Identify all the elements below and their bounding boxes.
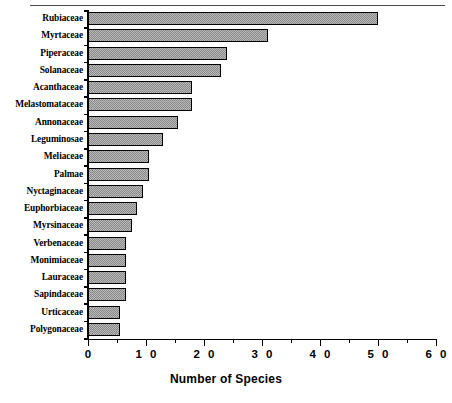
y-axis-tick	[84, 96, 89, 98]
x-axis-title: Number of Species	[0, 372, 452, 386]
bar	[88, 12, 378, 25]
bar	[88, 116, 178, 129]
category-label: Polygonaceae	[0, 324, 83, 335]
x-axis-minor-tick	[117, 339, 118, 343]
bar	[88, 237, 126, 250]
bar	[88, 202, 137, 215]
bar	[88, 271, 126, 284]
bar	[88, 81, 192, 94]
category-label: Piperaceae	[0, 48, 83, 59]
x-axis-tick-label: 6 0	[416, 348, 452, 360]
y-axis-tick	[84, 234, 89, 236]
x-axis-major-tick	[436, 339, 437, 346]
bar	[88, 64, 221, 77]
y-axis-tick	[84, 286, 89, 288]
y-axis-tick	[84, 200, 89, 202]
category-label: Sapindaceae	[0, 289, 83, 300]
x-axis-major-tick	[320, 339, 321, 346]
y-axis-tick	[84, 303, 89, 305]
category-label: Monimiaceae	[0, 255, 83, 266]
y-axis-tick	[84, 148, 89, 150]
x-axis-tick-label: 2 0	[184, 348, 224, 360]
x-axis-minor-tick	[233, 339, 234, 343]
category-label: Acanthaceae	[0, 82, 83, 93]
bar	[88, 306, 120, 319]
y-axis-tick	[84, 165, 89, 167]
bar	[88, 150, 149, 163]
y-axis-tick	[84, 269, 89, 271]
category-label: Lauraceae	[0, 272, 83, 283]
y-axis-tick	[84, 62, 89, 64]
x-axis-major-tick	[204, 339, 205, 346]
x-axis-major-tick	[146, 339, 147, 346]
x-axis-tick-label: 3 0	[242, 348, 282, 360]
category-axis-labels: RubiaceaeMyrtaceaePiperaceaeSolanaceaeAc…	[0, 10, 83, 338]
y-axis-tick	[84, 45, 89, 47]
y-axis-tick	[84, 183, 89, 185]
top-divider-rule	[30, 5, 445, 6]
y-axis-tick	[84, 79, 89, 81]
plot-area	[88, 10, 436, 338]
y-axis-tick	[84, 27, 89, 29]
x-axis-tick-label: 4 0	[300, 348, 340, 360]
category-label: Verbenaceae	[0, 238, 83, 249]
bar	[88, 168, 149, 181]
category-label: Solanaceae	[0, 65, 83, 76]
category-label: Annonaceae	[0, 117, 83, 128]
bar	[88, 47, 227, 60]
bar	[88, 254, 126, 267]
y-axis-tick	[84, 321, 89, 323]
x-axis-major-tick	[378, 339, 379, 346]
category-label: Meliaceae	[0, 151, 83, 162]
y-axis-tick	[84, 131, 89, 133]
bar	[88, 29, 268, 42]
x-axis-tick-label: 5 0	[358, 348, 398, 360]
x-axis-minor-tick	[407, 339, 408, 343]
x-axis-tick-label: 0	[68, 348, 108, 360]
bar	[88, 219, 132, 232]
bar	[88, 98, 192, 111]
y-axis-tick	[84, 217, 89, 219]
category-label: Myrtaceae	[0, 30, 83, 41]
category-label: Palmae	[0, 169, 83, 180]
x-axis-minor-tick	[175, 339, 176, 343]
bar	[88, 323, 120, 336]
category-label: Euphorbiaceae	[0, 203, 83, 214]
y-axis-tick	[84, 114, 89, 116]
category-label: Myrsinaceae	[0, 220, 83, 231]
category-label: Nyctaginaceae	[0, 186, 83, 197]
x-axis-major-tick	[88, 339, 89, 346]
x-axis-tick-label: 1 0	[126, 348, 166, 360]
x-axis-minor-tick	[291, 339, 292, 343]
category-label: Melastomataceae	[0, 99, 83, 110]
bar	[88, 288, 126, 301]
x-axis-minor-tick	[349, 339, 350, 343]
category-label: Rubiaceae	[0, 13, 83, 24]
y-axis-tick	[84, 252, 89, 254]
x-axis-major-tick	[262, 339, 263, 346]
category-label: Urticaceae	[0, 307, 83, 318]
bar-chart-figure: RubiaceaeMyrtaceaePiperaceaeSolanaceaeAc…	[0, 0, 452, 403]
bar	[88, 185, 143, 198]
bar	[88, 133, 163, 146]
category-label: Leguminosae	[0, 134, 83, 145]
y-axis-tick	[84, 10, 89, 12]
